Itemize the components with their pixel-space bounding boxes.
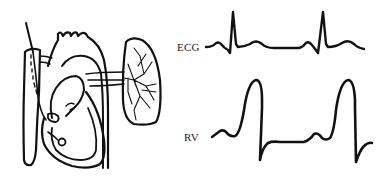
rv-trace	[212, 80, 372, 162]
lung-icon	[123, 38, 161, 124]
ecg-label: ECG	[177, 42, 200, 53]
catheter-icon	[26, 23, 33, 52]
rv-label: RV	[184, 132, 199, 143]
figure: ECG RV	[0, 0, 390, 183]
heart-illustration	[0, 0, 390, 183]
vena-cava-icon	[24, 49, 47, 165]
heart-icon	[40, 32, 124, 168]
ecg-trace	[206, 12, 364, 53]
